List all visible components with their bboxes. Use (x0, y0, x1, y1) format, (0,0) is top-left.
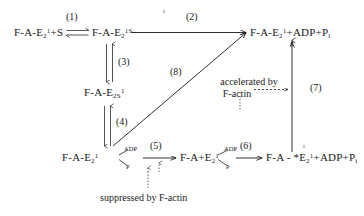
species-fae2-1s: F-A-E21S (92, 27, 133, 40)
species-fa-star-e2-1-adp-pi: F-A - *E21+ADP+Pi (266, 152, 357, 165)
species-fae2-1-adp-pi: F-A-E21+ADP+Pi (250, 27, 330, 40)
step-label-1: (1) (66, 12, 78, 22)
step-label-4: (4) (116, 117, 128, 127)
ligand-tag-adp-mid: ADP (224, 146, 237, 153)
step-label-2: (2) (186, 12, 198, 22)
scan-speck (303, 145, 305, 148)
ligand-tag-p-left: P (126, 164, 130, 171)
step-label-6: (6) (240, 141, 252, 151)
step-label-7: (7) (310, 83, 322, 93)
annotation-accelerated-by-f-actin: accelerated by F-actin (196, 76, 302, 99)
step-label-8: (8) (170, 67, 182, 77)
ligand-tag-adp-left: ADP (124, 146, 137, 153)
annotation-suppressed-by-f-actin: suppressed by F-actin (100, 192, 187, 204)
species-fae2-1-plus-s: F-A-E21+S (14, 27, 63, 40)
species-fae2s-1: F-A-E2S1 (84, 87, 125, 100)
scan-speck (163, 10, 165, 13)
annotation-accelerated-line2: F-actin (172, 88, 302, 100)
species-fa-plus-e2-1-ligands: F-A+E21 (180, 152, 219, 165)
annotation-accelerated-line1: accelerated by (196, 76, 302, 88)
reaction-scheme-diagram: F-A-E21+S F-A-E21S F-A-E21+ADP+Pi F-A-E2… (0, 0, 364, 216)
step-label-5: (5) (150, 141, 162, 151)
ligand-tag-p-mid: P (226, 164, 230, 171)
step-label-3: (3) (118, 57, 130, 67)
species-fae2-1-ligands: F-A-E21 (62, 152, 99, 165)
